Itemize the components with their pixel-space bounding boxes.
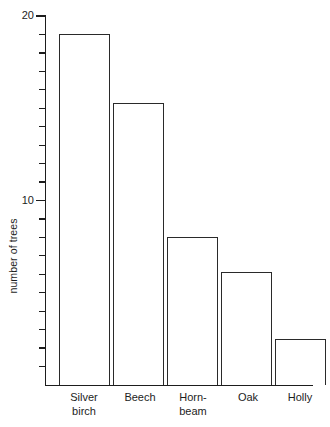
y-tick-minor [39, 52, 45, 53]
y-axis-label: number of trees [7, 196, 19, 316]
bar [59, 34, 110, 385]
y-tick-minor [39, 274, 45, 275]
y-tick-minor [39, 329, 45, 330]
y-tick-label: 20 [0, 10, 34, 21]
y-tick-minor [39, 255, 45, 256]
bar [113, 103, 164, 385]
y-tick-minor [39, 218, 45, 219]
y-tick-minor [39, 126, 45, 127]
y-tick-minor [39, 34, 45, 35]
y-tick-minor [39, 163, 45, 164]
y-tick-minor [39, 292, 45, 293]
y-tick-minor [39, 89, 45, 90]
y-tick-minor [39, 108, 45, 109]
y-tick-major [36, 15, 45, 16]
y-tick-minor [39, 366, 45, 367]
y-tick-label: 10 [0, 195, 34, 206]
y-tick-minor [39, 181, 45, 182]
y-tick-minor [39, 311, 45, 312]
bar [167, 237, 218, 385]
y-axis-line [45, 15, 46, 386]
bar [275, 339, 326, 385]
bar-chart: number of trees 1020 Silver birchBeechHo… [0, 0, 319, 427]
y-tick-major [36, 200, 45, 201]
x-axis-label: Holly [262, 390, 330, 404]
bar [221, 272, 272, 385]
y-tick-minor [39, 237, 45, 238]
y-tick-minor [39, 145, 45, 146]
y-tick-minor [39, 347, 45, 348]
y-tick-minor [39, 71, 45, 72]
